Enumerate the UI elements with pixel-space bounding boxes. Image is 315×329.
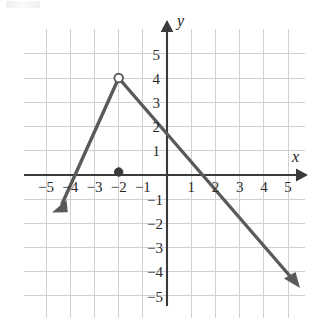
y-tick-label-3: 3 <box>153 95 161 111</box>
y-tick-label--3: −3 <box>147 240 163 256</box>
x-axis-arrowhead <box>296 169 308 182</box>
x-tick-label--2: −2 <box>111 179 127 195</box>
x-tick-label--5: −5 <box>38 179 54 195</box>
y-tick-label-4: 4 <box>153 71 161 87</box>
y-axis-arrowhead <box>161 20 174 32</box>
y-tick-label-1: 1 <box>153 143 161 159</box>
x-tick-label--3: −3 <box>87 179 103 195</box>
x-tick-label-4: 4 <box>260 179 268 195</box>
x-tick-label-1: 1 <box>188 179 196 195</box>
y-tick-label--1: −1 <box>147 192 163 208</box>
y-tick-label-5: 5 <box>153 47 161 63</box>
graph-left-arrowhead <box>52 200 68 213</box>
y-tick-label--4: −4 <box>147 264 163 280</box>
open-circle-vertex-marker <box>114 74 123 83</box>
y-tick-label--5: −5 <box>147 289 163 305</box>
x-tick-label-3: 3 <box>236 179 244 195</box>
y-axis-label: y <box>175 12 185 30</box>
coordinate-plane-graph: −5 −4 −3 −2 −1 1 2 3 4 5 5 4 3 2 1 −1 −2… <box>0 0 315 329</box>
y-tick-label--2: −2 <box>147 216 163 232</box>
grid-lines <box>24 29 305 318</box>
x-axis-label: x <box>291 148 299 165</box>
x-tick-label-2: 2 <box>212 179 220 195</box>
closed-dot-marker <box>115 168 123 176</box>
x-tick-labels: −5 −4 −3 −2 −1 1 2 3 4 5 <box>38 179 292 195</box>
y-tick-label-2: 2 <box>153 119 161 135</box>
x-tick-label-5: 5 <box>284 179 292 195</box>
x-tick-label--4: −4 <box>62 179 78 195</box>
